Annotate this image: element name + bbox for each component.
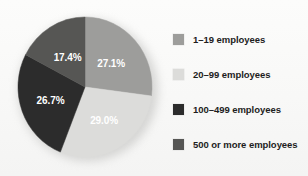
legend-color-swatch — [173, 69, 184, 80]
legend-item-label: 1–19 employees — [193, 34, 265, 45]
pie-slice-data-label: 29.0% — [90, 115, 118, 126]
pie-svg: 27.1%29.0%26.7%17.4% — [12, 11, 164, 167]
legend-item[interactable]: 100–499 employees — [173, 92, 305, 127]
pie-chart-figure: 27.1%29.0%26.7%17.4% 1–19 employees20–99… — [0, 0, 308, 176]
legend-item-label: 20–99 employees — [193, 69, 270, 80]
legend-color-swatch — [173, 139, 184, 150]
pie-chart-plot-area: 27.1%29.0%26.7%17.4% — [12, 11, 164, 167]
legend: 1–19 employees20–99 employees100–499 emp… — [173, 22, 305, 162]
legend-item-label: 500 or more employees — [193, 139, 298, 150]
pie-slice-data-label: 27.1% — [97, 58, 125, 69]
pie-slice-data-label: 26.7% — [37, 95, 65, 106]
legend-item[interactable]: 20–99 employees — [173, 57, 305, 92]
pie-slice-data-label: 17.4% — [54, 52, 82, 63]
legend-item[interactable]: 500 or more employees — [173, 127, 305, 162]
pie-slice-group — [18, 17, 152, 157]
legend-color-swatch — [173, 104, 184, 115]
pie-slice — [85, 17, 152, 96]
legend-item-label: 100–499 employees — [193, 104, 281, 115]
legend-color-swatch — [173, 34, 184, 45]
legend-item[interactable]: 1–19 employees — [173, 22, 305, 57]
